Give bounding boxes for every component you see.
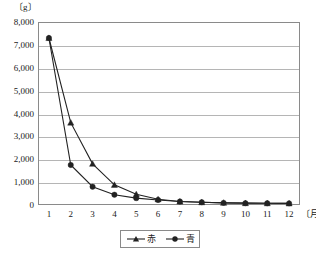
circle-marker-icon: [46, 35, 51, 40]
chart-legend: 赤青: [120, 230, 200, 248]
y-axis-tick-label: 6,000: [0, 64, 34, 73]
y-axis-tick-label: 3,000: [0, 132, 34, 141]
circle-marker-icon: [112, 192, 117, 197]
x-axis-tick-label: 6: [148, 209, 168, 219]
y-axis-tick-label: 5,000: [0, 87, 34, 96]
x-axis-tick-label: 5: [126, 209, 146, 219]
chart-figure: 〔g〕 8,0007,0006,0005,0004,0003,0002,0001…: [0, 0, 316, 258]
legend-label: 青: [186, 235, 195, 244]
series-赤: [46, 35, 292, 206]
y-axis-tick-label: 8,000: [0, 18, 34, 27]
circle-marker-icon: [221, 200, 226, 205]
circle-marker-icon: [177, 199, 182, 204]
circle-marker-icon: [68, 162, 73, 167]
circle-marker-icon: [243, 200, 248, 205]
triangle-marker-icon: [68, 120, 74, 126]
x-axis-tick-label: 12: [279, 209, 299, 219]
legend-item-赤[interactable]: 赤: [126, 234, 156, 244]
x-axis-tick-label: 4: [104, 209, 124, 219]
y-axis-tick-label: 2,000: [0, 155, 34, 164]
x-axis-tick-label: 9: [214, 209, 234, 219]
triangle-marker-icon: [89, 161, 95, 167]
circle-marker-icon: [286, 201, 291, 206]
y-axis-tick-label: 7,000: [0, 41, 34, 50]
x-axis-tick-label: 11: [257, 209, 277, 219]
circle-marker-icon: [155, 197, 160, 202]
legend-label: 赤: [147, 235, 156, 244]
x-axis-unit-label: 〔月〕: [301, 209, 316, 219]
x-axis-tick-label: 10: [235, 209, 255, 219]
series-青: [46, 35, 292, 206]
circle-marker-icon: [90, 184, 95, 189]
circle-marker-icon: [134, 195, 139, 200]
series-line: [49, 38, 289, 203]
x-axis-tick-label: 8: [192, 209, 212, 219]
x-axis-tick-label: 7: [170, 209, 190, 219]
y-axis-unit-label: 〔g〕: [14, 2, 37, 13]
x-axis-tick-label: 3: [83, 209, 103, 219]
y-axis-tick-label: 0: [0, 201, 34, 210]
legend-item-青[interactable]: 青: [165, 234, 195, 244]
circle-marker-icon: [165, 234, 185, 244]
x-axis-tick-label: 1: [39, 209, 59, 219]
x-axis-tick-label: 2: [61, 209, 81, 219]
y-axis-tick-label: 4,000: [0, 110, 34, 119]
y-axis-tick-label: 1,000: [0, 178, 34, 187]
series-overlay: [38, 22, 300, 205]
triangle-marker-icon: [126, 234, 146, 244]
circle-marker-icon: [199, 200, 204, 205]
circle-marker-icon: [265, 201, 270, 206]
